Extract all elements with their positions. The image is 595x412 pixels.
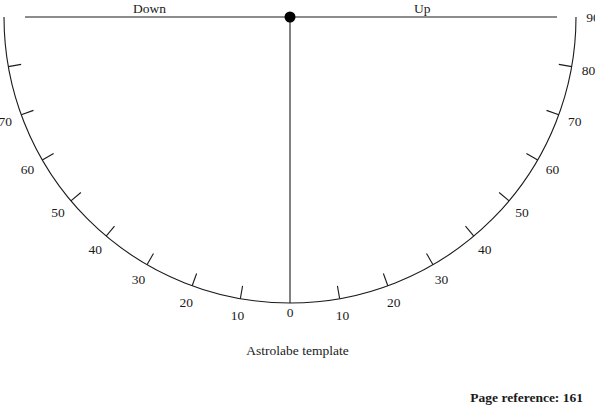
tick-mark-up-70	[547, 110, 559, 114]
tick-mark-up-60	[526, 154, 537, 161]
degree-label-up-60: 60	[546, 162, 560, 177]
degree-label-down-30: 30	[132, 272, 146, 287]
tick-mark-down-80	[8, 64, 21, 66]
degree-label-down-50: 50	[51, 205, 65, 220]
degree-label-down-60: 60	[21, 162, 35, 177]
degree-label-down-20: 20	[180, 295, 194, 310]
degree-label-up-80: 80	[582, 63, 595, 78]
tick-mark-up-40	[465, 226, 473, 236]
figure-caption: Astrolabe template	[0, 343, 595, 359]
degree-label-up-30: 30	[435, 272, 449, 287]
tick-mark-down-10	[240, 286, 242, 299]
pivot-dot-icon	[285, 12, 296, 23]
tick-mark-up-80	[559, 64, 572, 66]
tick-mark-down-70	[21, 110, 33, 114]
tick-mark-down-60	[42, 154, 53, 161]
degree-label-up-90: 90	[586, 10, 595, 25]
degree-label-up-70: 70	[568, 114, 582, 129]
tick-mark-down-30	[147, 253, 154, 264]
degree-label-up-10: 10	[336, 308, 350, 323]
page-reference: Page reference: 161	[470, 390, 583, 406]
degree-label-down-70: 70	[0, 114, 12, 129]
tick-mark-up-50	[499, 192, 509, 200]
degree-labels: 9080706050403020100102030405060708090	[0, 10, 595, 323]
tick-mark-down-20	[192, 274, 196, 286]
degree-label-up-40: 40	[478, 242, 492, 257]
direction-label-down: Down	[133, 1, 166, 17]
tick-mark-up-10	[337, 286, 339, 299]
tick-mark-up-30	[427, 253, 434, 264]
degree-label-down-0: 0	[287, 305, 294, 320]
degree-label-down-10: 10	[231, 308, 245, 323]
degree-label-up-20: 20	[387, 295, 401, 310]
tick-mark-up-20	[383, 274, 387, 286]
tick-mark-down-40	[106, 226, 114, 236]
degree-label-up-50: 50	[515, 205, 529, 220]
astrolabe-figure: 9080706050403020100102030405060708090 Do…	[0, 0, 595, 412]
direction-label-up: Up	[414, 1, 431, 17]
degree-label-down-40: 40	[88, 242, 102, 257]
tick-mark-down-50	[71, 192, 81, 200]
